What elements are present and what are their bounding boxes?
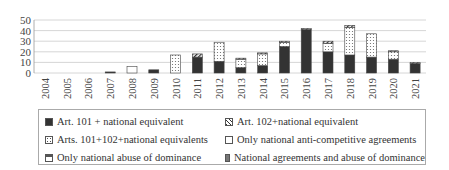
legend-item-national-both: National agreements and abuse of dominan…	[225, 149, 425, 166]
x-tick-label: 2006	[83, 78, 94, 99]
x-tick-label: 2009	[149, 78, 160, 99]
legend-item-national-agreements: Only national anti-competitive agreement…	[225, 131, 425, 148]
bar-segment	[388, 51, 398, 52]
x-tick-label: 2010	[171, 78, 182, 99]
bar-segment	[236, 59, 246, 67]
solid-dark-swatch-icon	[45, 118, 53, 126]
bar-segment	[192, 57, 202, 73]
x-tick-label: 2017	[323, 78, 334, 99]
y-tick-label: 40	[20, 25, 32, 37]
bar-segment	[214, 61, 224, 73]
legend-item-art101-102: Arts. 101+102+national equivalents	[45, 131, 225, 148]
bar-segment	[149, 70, 159, 73]
bar-segment	[236, 68, 246, 73]
dotted-swatch-icon	[45, 136, 53, 144]
bar-segment	[258, 53, 268, 54]
bar-segment	[345, 27, 355, 55]
x-tick-label: 2008	[127, 78, 138, 99]
bar-segment	[214, 42, 224, 61]
top-band-swatch-icon	[45, 154, 53, 162]
bar-segment	[323, 52, 333, 73]
x-axis: 2004200520062007200820092010201120122013…	[40, 77, 421, 99]
bar-segment	[258, 54, 268, 66]
y-tick-label: 50	[20, 14, 32, 26]
x-tick-label: 2019	[367, 78, 378, 99]
bar-segment	[323, 41, 333, 43]
bar-segment	[279, 47, 289, 74]
bar-segment	[410, 62, 420, 63]
bar-segment	[388, 59, 398, 73]
y-tick-label: 20	[20, 46, 32, 58]
bar-segment	[192, 54, 202, 57]
x-tick-label: 2005	[62, 78, 73, 99]
bar-segment	[236, 58, 246, 59]
x-tick-label: 2020	[388, 78, 399, 99]
legend: Art. 101 + national equivalent Art. 102+…	[38, 109, 426, 165]
x-tick-label: 2021	[410, 78, 421, 99]
bar-segment	[345, 25, 355, 27]
legend-item-art101: Art. 101 + national equivalent	[45, 113, 225, 130]
x-tick-label: 2004	[40, 77, 51, 99]
legend-item-art102: Art. 102+national equivalent	[225, 113, 425, 130]
bar-segment	[323, 43, 333, 51]
bar-segment	[301, 28, 311, 29]
bars	[105, 25, 420, 73]
bar-segment	[301, 30, 311, 73]
hatched-swatch-icon	[225, 118, 233, 126]
legend-item-national-abuse: Only national abuse of dominance	[45, 149, 225, 166]
stacked-bar-chart: 01020304050 2004200520062007200820092010…	[0, 0, 449, 110]
y-tick-label: 10	[20, 56, 32, 68]
y-axis: 01020304050	[20, 14, 34, 79]
y-tick-label: 0	[26, 67, 32, 79]
solid-grey-swatch-icon	[225, 154, 230, 162]
bar-segment	[279, 42, 289, 46]
bar-segment	[258, 66, 268, 73]
x-tick-label: 2007	[105, 78, 116, 99]
x-tick-label: 2018	[345, 78, 356, 99]
bar-segment	[171, 55, 181, 73]
bar-segment	[367, 57, 377, 73]
bar-segment	[345, 55, 355, 73]
x-tick-label: 2014	[258, 77, 269, 99]
x-tick-label: 2011	[192, 78, 203, 99]
x-tick-label: 2013	[236, 78, 247, 99]
bar-segment	[367, 34, 377, 57]
empty-swatch-icon	[225, 136, 233, 144]
y-tick-label: 30	[20, 35, 32, 47]
x-tick-label: 2015	[279, 78, 290, 99]
x-tick-label: 2016	[301, 78, 312, 99]
bar-segment	[410, 63, 420, 73]
bar-segment	[388, 52, 398, 59]
bar-segment	[279, 41, 289, 42]
bar-segment	[127, 67, 137, 73]
x-tick-label: 2012	[214, 78, 225, 99]
bar-segment	[105, 72, 115, 73]
